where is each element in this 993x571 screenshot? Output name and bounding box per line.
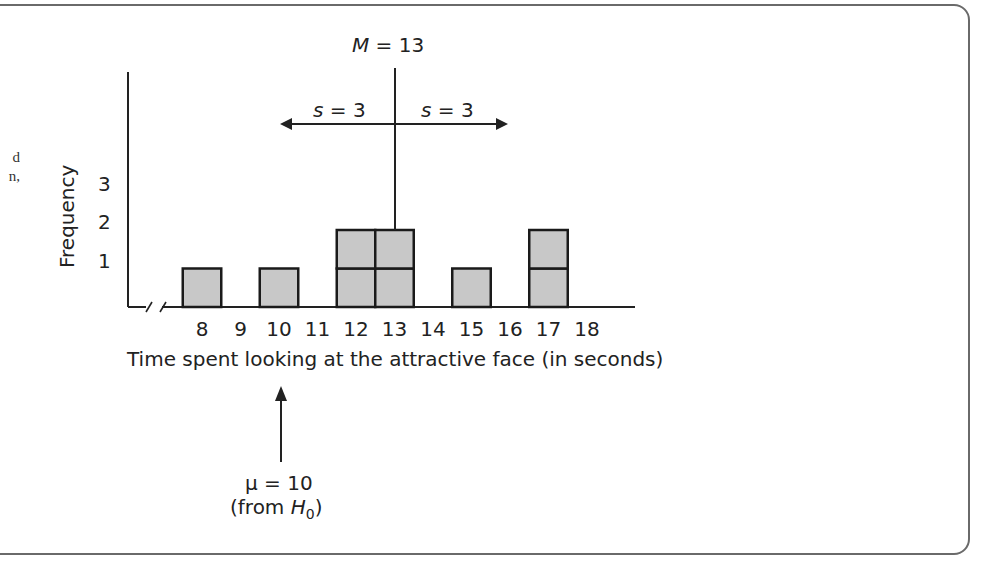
histogram-box [337,269,376,308]
x-tick-label: 13 [382,317,407,341]
histogram-chart: 89101112131415161718 3 2 1 Frequency Tim… [0,0,993,571]
mean-label: M = 13 [352,33,424,57]
x-tick-label: 18 [574,317,599,341]
histogram-box [337,230,376,269]
y-axis-label: Frequency [55,165,79,268]
histogram-box [452,269,491,308]
histogram-box [260,269,299,308]
mu-arrow [275,386,287,462]
mu-source-label: (from H0) [230,495,322,522]
x-tick-label: 17 [536,317,561,341]
histogram-box [529,230,568,269]
x-tick-label: 12 [343,317,368,341]
arrow-up-icon [275,386,287,401]
x-tick-labels: 89101112131415161718 [196,317,600,341]
x-tick-label: 10 [266,317,291,341]
arrow-left-icon [280,118,292,130]
x-tick-label: 14 [420,317,445,341]
y-tick-1: 1 [98,249,111,273]
x-tick-label: 9 [234,317,247,341]
x-tick-label: 15 [459,317,484,341]
histogram-box [183,269,222,308]
sd-right-label: s = 3 [421,98,474,122]
x-tick-label: 16 [497,317,522,341]
y-tick-3: 3 [98,172,111,196]
histogram-box [375,230,414,269]
x-tick-label: 11 [305,317,330,341]
x-tick-label: 8 [196,317,209,341]
arrow-right-icon [496,118,508,130]
x-axis-label: Time spent looking at the attractive fac… [126,347,663,371]
mu-label: μ = 10 [245,471,313,495]
sd-left-label: s = 3 [313,98,366,122]
histogram-box [375,269,414,308]
axis-break-mark [146,302,152,312]
histogram-box [529,269,568,308]
y-tick-2: 2 [98,210,111,234]
histogram-bars [183,230,568,307]
